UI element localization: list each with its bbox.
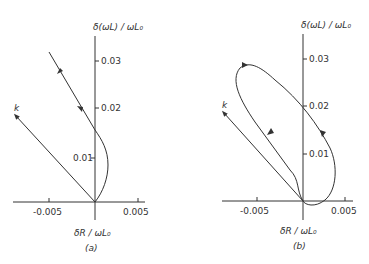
k-label-a: k — [14, 103, 20, 113]
y-tick-b-0.01: 0.01 — [309, 149, 329, 159]
y-axis-label-a: δ(ωL) / ωL₀ — [93, 22, 143, 32]
y-tick-a-0.02: 0.02 — [101, 103, 121, 113]
y-tick-a-0.01: 0.01 — [73, 153, 93, 163]
x-tick-b-neg: -0.005 — [240, 206, 269, 216]
y-tick-b-0.03: 0.03 — [309, 54, 329, 64]
x-axis-label-b: δR / ωL₀ — [280, 226, 317, 236]
figure: 0.03 0.02 0.01 -0.005 0.005 δ(ωL) / ωL₀ … — [0, 0, 369, 264]
x-axis-label-a: δR / ωL₀ — [74, 228, 111, 238]
arrow-up-a — [57, 68, 63, 74]
locus-curve-a — [49, 52, 108, 202]
caption-a: (a) — [85, 243, 98, 253]
x-tick-b-pos: 0.005 — [331, 206, 357, 216]
x-tick-a-neg: -0.005 — [33, 207, 62, 217]
diagram-canvas: 0.03 0.02 0.01 -0.005 0.005 δ(ωL) / ωL₀ … — [0, 0, 369, 264]
arrow-down-a — [77, 106, 83, 112]
arrow-up-b — [267, 128, 274, 135]
arrow-top-b — [242, 62, 248, 68]
locus-curve-b — [236, 65, 335, 205]
k-vector-b — [224, 113, 303, 201]
k-label-b: k — [222, 100, 228, 110]
y-tick-b-0.02: 0.02 — [309, 101, 329, 111]
y-axis-label-b: δ(ωL) / ωL₀ — [301, 20, 351, 30]
x-tick-a-pos: 0.005 — [123, 207, 149, 217]
caption-b: (b) — [293, 241, 306, 251]
panel-a: 0.03 0.02 0.01 -0.005 0.005 δ(ωL) / ωL₀ … — [13, 22, 149, 253]
y-tick-a-0.03: 0.03 — [101, 56, 121, 66]
panel-b: 0.03 0.02 0.01 -0.005 0.005 δ(ωL) / ωL₀ … — [222, 20, 357, 251]
